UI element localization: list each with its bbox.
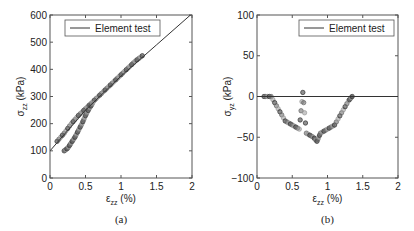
x-tick-label: 0 (47, 181, 53, 192)
x-tick-label: 2 (189, 181, 195, 192)
y-tick-label: −50 (237, 132, 254, 143)
legend: Element test (65, 20, 160, 36)
y-tick-label: 0 (248, 91, 254, 102)
x-tick-label: 0 (254, 181, 260, 192)
legend-label: Element test (95, 23, 151, 34)
plot-area (50, 15, 192, 178)
y-axis-label: σzz (kPa) (15, 77, 28, 117)
data-point (298, 118, 302, 122)
y-tick-label: 100 (30, 145, 47, 156)
figure: 00.511.520100200300400500600Element test… (0, 0, 414, 231)
y-tick-label: 300 (30, 91, 47, 102)
x-axis-label: εzz (%) (106, 193, 136, 206)
y-tick-label: 100 (237, 10, 254, 21)
x-tick-label: 0.5 (285, 181, 299, 192)
legend-label: Element test (329, 23, 385, 34)
panel-caption: (b) (321, 213, 334, 226)
y-tick-label: 600 (30, 10, 47, 21)
y-tick-label: 400 (30, 64, 47, 75)
data-point (302, 111, 306, 115)
plot-content (257, 90, 398, 143)
x-tick-label: 0.5 (79, 181, 93, 192)
y-tick-label: 500 (30, 37, 47, 48)
data-point (302, 100, 306, 104)
y-tick-label: 200 (30, 118, 47, 129)
x-tick-label: 2 (395, 181, 401, 192)
x-tick-label: 1 (118, 181, 124, 192)
panel-a: 00.511.520100200300400500600Element test… (15, 10, 195, 227)
data-point (301, 90, 305, 94)
panel-caption: (a) (115, 213, 128, 226)
data-point (297, 127, 301, 131)
x-tick-label: 1.5 (150, 181, 164, 192)
data-point (303, 121, 307, 125)
x-axis-label: εzz (%) (313, 193, 343, 206)
panel-b: 00.511.52−100−50050100Element testσyz (k… (222, 10, 401, 227)
y-tick-label: 50 (243, 50, 255, 61)
y-tick-label: 0 (41, 173, 47, 184)
y-axis-label: σyz (kPa) (222, 77, 236, 117)
x-tick-label: 1.5 (356, 181, 370, 192)
legend: Element test (299, 20, 394, 36)
y-tick-label: −100 (231, 173, 254, 184)
x-tick-label: 1 (325, 181, 331, 192)
